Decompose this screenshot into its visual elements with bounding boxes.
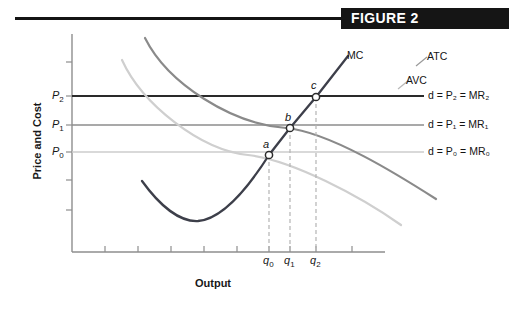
atc-curve-label: ATC [427, 50, 447, 62]
point-b-label: b [285, 111, 291, 123]
figure-container: FIGURE 2 [0, 0, 519, 309]
mc-curve-label: MC [347, 49, 363, 61]
demand-label-p2: d = P₂ = MR₂ [428, 89, 489, 101]
avc-curve-label: AVC [406, 74, 427, 86]
x-axis-title: Output [180, 277, 246, 289]
y-tick-label-p0: P0 [52, 145, 64, 160]
x-tick-label-q2: q2 [310, 254, 321, 269]
x-tick-label-q1: q1 [284, 254, 295, 269]
point-c-label: c [311, 79, 317, 91]
y-tick-label-p2: P2 [52, 89, 64, 104]
y-axis-ticks [66, 62, 72, 210]
point-c-marker [312, 93, 319, 100]
demand-label-p0: d = P₀ = MR₀ [428, 145, 490, 157]
atc-leader-line [416, 57, 427, 66]
point-a-marker [265, 151, 272, 158]
x-tick-label-q0: q0 [263, 254, 274, 269]
x-axis-ticks [105, 246, 352, 252]
point-b-marker [286, 124, 293, 131]
point-a-label: a [263, 138, 269, 150]
avc-curve [122, 60, 401, 225]
demand-label-p1: d = P₁ = MR₁ [428, 118, 488, 130]
mc-curve [142, 56, 348, 221]
y-axis-title: Price and Cost [31, 86, 43, 196]
y-tick-label-p1: P1 [52, 118, 64, 133]
